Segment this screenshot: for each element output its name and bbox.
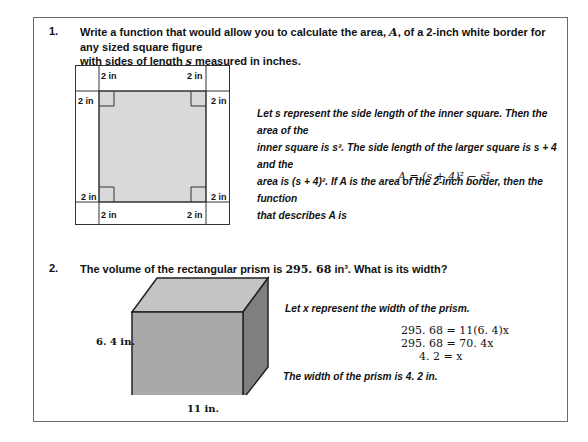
equation-line: 295. 68 = 11(6. 4)x xyxy=(401,324,521,337)
dimension-label: 2 in xyxy=(101,71,117,81)
inner-square xyxy=(99,91,206,202)
question-text: The volume of the rectangular prism is xyxy=(80,263,285,275)
equation-line: 4. 2 = x xyxy=(401,350,521,363)
volume-value: 295. 68 xyxy=(285,263,331,276)
problem-2-number: 2. xyxy=(49,262,58,274)
border-square-diagram xyxy=(75,65,230,225)
dimension-label: 2 in xyxy=(81,192,97,202)
question-text: . What is its width? xyxy=(348,263,448,275)
length-label: 11 in. xyxy=(187,403,219,414)
height-label: 6. 4 in. xyxy=(96,336,135,347)
solution-line: that describes A is xyxy=(257,207,567,224)
border-area-formula: A = (s + 4)² − s² xyxy=(398,170,490,183)
prism-front-face xyxy=(132,312,243,395)
dimension-label: 2 in xyxy=(78,96,94,106)
solution-line: Let s represent the side length of the i… xyxy=(257,105,567,139)
problem-2-conclusion: The width of the prism is 4. 2 in. xyxy=(283,368,438,385)
rectangular-prism-diagram xyxy=(125,275,275,395)
solution-line: inner square is s². The side length of t… xyxy=(257,139,567,173)
volume-unit: in³ xyxy=(331,263,348,275)
problem-2-equations: 295. 68 = 11(6. 4)x 295. 68 = 70. 4x 4. … xyxy=(401,324,521,363)
equation-line: 295. 68 = 70. 4x xyxy=(401,337,521,350)
dimension-label: 2 in xyxy=(211,96,227,106)
dimension-label: 2 in xyxy=(187,71,203,81)
dimension-label: 2 in xyxy=(101,210,117,220)
problem-1-number: 1. xyxy=(49,25,58,37)
problem-1-question: Write a function that would allow you to… xyxy=(80,25,560,69)
question-text: Write a function that would allow you to… xyxy=(80,26,389,38)
dimension-label: 2 in xyxy=(187,210,203,220)
variable-a: A xyxy=(389,26,398,39)
problem-2-solution-intro: Let x represent the width of the prism. xyxy=(285,300,470,317)
problem-1-solution: Let s represent the side length of the i… xyxy=(257,105,567,224)
dimension-label: 2 in xyxy=(211,192,227,202)
